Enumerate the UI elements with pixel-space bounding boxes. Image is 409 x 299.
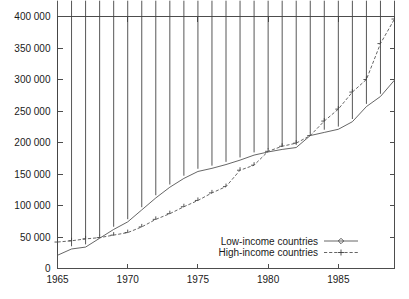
data-series-group	[55, 1, 395, 256]
y-tick-label: 400 000	[14, 11, 51, 22]
y-tick-label: 350 000	[14, 43, 51, 54]
plus-marker-icon	[139, 224, 142, 227]
y-tick-label: 50 000	[20, 232, 51, 243]
x-tick-label: 1985	[327, 274, 350, 285]
plus-marker-icon	[209, 190, 212, 193]
x-tick-label: 1970	[117, 274, 140, 285]
plus-marker-icon	[363, 77, 366, 80]
y-tick-label: 250 000	[14, 106, 51, 117]
legend-label: Low-income countries	[221, 236, 318, 247]
plus-marker-icon	[377, 41, 380, 44]
y-tick-label: 150 000	[14, 169, 51, 180]
plus-marker-icon	[223, 184, 226, 187]
plus-marker-icon	[69, 238, 72, 241]
plus-marker-icon	[195, 197, 198, 200]
y-tick-label: 300 000	[14, 74, 51, 85]
plus-marker-icon	[307, 133, 310, 136]
series-1	[58, 1, 395, 256]
y-tick-label: 0	[45, 263, 51, 274]
plus-marker-icon	[279, 143, 282, 146]
plus-marker-icon	[321, 118, 324, 121]
series-2	[55, 16, 395, 242]
plus-marker-icon	[83, 236, 86, 239]
plus-marker-icon	[237, 167, 240, 170]
plus-marker-icon	[55, 239, 58, 242]
plus-marker-icon	[97, 235, 100, 238]
plus-marker-icon	[338, 250, 344, 256]
plus-marker-icon	[181, 204, 184, 207]
x-tick-label: 1965	[46, 274, 69, 285]
chart-legend: Low-income countriesHigh-income countrie…	[219, 236, 359, 259]
x-tick-label: 1975	[187, 274, 210, 285]
plus-marker-icon	[349, 89, 352, 92]
plus-marker-icon	[125, 230, 128, 233]
chart-container: 050 000100 000150 000200 000250 000300 0…	[0, 0, 409, 299]
line-chart: 050 000100 000150 000200 000250 000300 0…	[0, 0, 409, 299]
plus-marker-icon	[265, 148, 268, 151]
plus-marker-icon	[153, 216, 156, 219]
plus-marker-icon	[167, 211, 170, 214]
plus-marker-icon	[111, 232, 114, 235]
y-tick-label: 200 000	[14, 137, 51, 148]
plus-marker-icon	[251, 162, 254, 165]
plus-marker-icon	[335, 106, 338, 109]
y-tick-label: 100 000	[14, 200, 51, 211]
legend-label: High-income countries	[219, 247, 319, 258]
plus-marker-icon	[293, 140, 296, 143]
x-tick-label: 1980	[257, 274, 280, 285]
